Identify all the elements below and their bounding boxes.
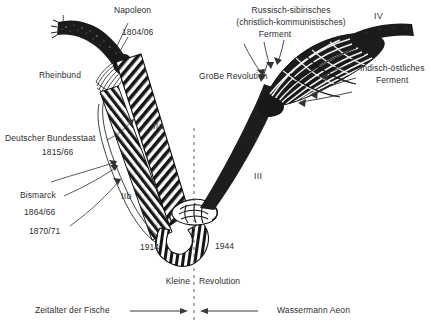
label-rheinbund: Rheinbund [39,70,81,80]
marker-I: I [62,13,65,23]
label-year-1944: 1944 [215,241,234,251]
arrow-right-head [180,308,188,314]
label-bundesstaat-years: 1815/66 [42,147,73,157]
marker-IIa: IIa [153,121,164,131]
label-napoleon-years: 1804/06 [122,27,153,37]
label-aeon-right: Wassermann Aeon [277,305,350,315]
label-grosse-revolution: GroBe Revolution [199,71,268,81]
figure-canvas: I Napoleon 1804/06 Rheinbund Deutscher B… [0,0,431,331]
label-revolution: Revolution [199,276,240,286]
right-braid-bundle [258,33,384,117]
marker-IV: IV [374,11,383,21]
label-indisch-line2: Ferment [376,75,408,85]
label-bismarck: Bismarck [20,190,56,200]
label-aeon-left: Zeitalter der Fische [35,305,110,315]
label-bismarck-years-1: 1864/66 [24,207,55,217]
label-indisch-line1: Indisch-östliches [360,63,425,73]
label-napoleon: Napoleon [114,5,151,15]
label-russisch-line1: Russisch-sibirisches [252,5,331,15]
ferment-arrows-left [244,40,284,74]
marker-III: III [254,171,262,181]
left-arm-I [51,20,124,64]
label-kleine: Kleine [166,276,190,286]
label-russisch-line3: Ferment [259,29,291,39]
label-deutscher-bundesstaat: Deutscher Bundesstaat [5,133,95,143]
marker-IIb: IIb [121,191,132,201]
label-year-1914: 1914 [140,242,159,252]
label-russisch-line2: (christlich-kommunistisches) [236,17,346,27]
label-bismarck-years-2: 1870/71 [29,226,60,236]
arrow-left-head [200,308,208,314]
